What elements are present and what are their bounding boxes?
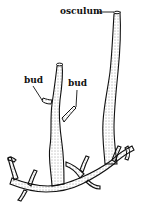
- label-bud-left: bud: [24, 76, 43, 85]
- tube-right: [103, 12, 121, 164]
- sponge-illustration: [0, 0, 141, 202]
- tube-left: [49, 64, 64, 186]
- label-bud-right: bud: [68, 79, 87, 88]
- label-osculum: osculum: [60, 7, 103, 16]
- bud-right-shape: [62, 106, 76, 122]
- bud-left-shape: [42, 98, 52, 104]
